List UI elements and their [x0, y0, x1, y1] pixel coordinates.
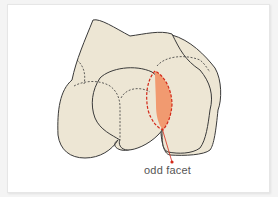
knee-diagram [0, 0, 278, 197]
odd-facet-label: odd facet [144, 164, 191, 176]
